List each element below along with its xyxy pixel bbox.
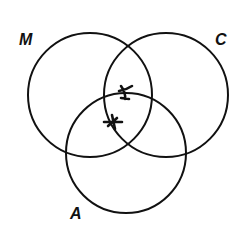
circle-m [28,33,152,157]
label-m: M [19,31,33,48]
circle-c [104,33,228,157]
label-a: A [69,205,82,222]
circle-a [66,93,186,213]
label-c: C [215,31,227,48]
venn-diagram: M C A [0,0,245,231]
